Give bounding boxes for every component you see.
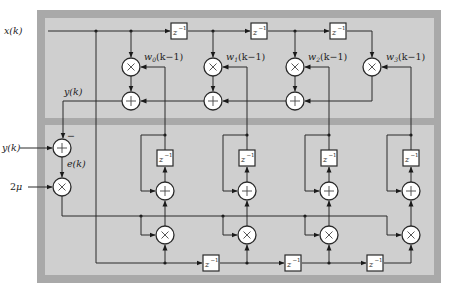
multiplier-w3 [363, 58, 381, 76]
delay-bottom-1: z −1 [203, 255, 219, 271]
svg-text:−1: −1 [179, 25, 187, 31]
error-adder [53, 139, 71, 157]
adder-top-2 [286, 92, 304, 110]
adder-top-0 [122, 92, 140, 110]
multiplier-w1 [204, 58, 222, 76]
update-panel [45, 125, 434, 275]
weight-label-1: w1(k−1) [226, 51, 265, 63]
svg-text:z: z [172, 28, 178, 37]
svg-text:z: z [204, 260, 210, 269]
weight-label-0: w0(k−1) [144, 51, 183, 63]
svg-text:z: z [368, 260, 374, 269]
step-size-label: 2μ [10, 181, 22, 192]
weight-label-3: w3(k−1) [386, 51, 425, 63]
multiplier-w2 [286, 58, 304, 76]
output-label: y(k) [63, 86, 83, 97]
svg-text:z: z [404, 155, 410, 164]
adder-top-1 [204, 92, 222, 110]
svg-text:−1: −1 [211, 257, 219, 263]
svg-text:z: z [331, 28, 337, 37]
svg-text:z: z [240, 155, 246, 164]
lms-filter-diagram: z −1 z −1 z −1 w0(k−1) w1(k−1) w2(k−1) w… [0, 0, 450, 296]
minus-sign: − [67, 130, 75, 141]
delay-top-1: z −1 [171, 23, 187, 39]
svg-text:z: z [322, 155, 328, 164]
delay-top-2: z −1 [251, 23, 267, 39]
multiplier-w0 [122, 58, 140, 76]
svg-text:z: z [252, 28, 258, 37]
svg-text:−1: −1 [293, 257, 301, 263]
weight-label-2: w2(k−1) [308, 51, 347, 63]
delay-top-3: z −1 [330, 23, 346, 39]
svg-text:−1: −1 [165, 152, 173, 158]
desired-input-label: y(k) [1, 142, 21, 153]
svg-text:−1: −1 [259, 25, 267, 31]
svg-text:z: z [158, 155, 164, 164]
svg-text:−1: −1 [338, 25, 346, 31]
input-label: x(k) [4, 25, 23, 36]
delay-bottom-3: z −1 [367, 255, 383, 271]
error-label: e(k) [67, 158, 86, 169]
step-multiplier [53, 178, 71, 196]
svg-text:−1: −1 [411, 152, 419, 158]
svg-text:−1: −1 [329, 152, 337, 158]
svg-text:−1: −1 [247, 152, 255, 158]
svg-text:−1: −1 [375, 257, 383, 263]
delay-bottom-2: z −1 [285, 255, 301, 271]
svg-text:z: z [286, 260, 292, 269]
